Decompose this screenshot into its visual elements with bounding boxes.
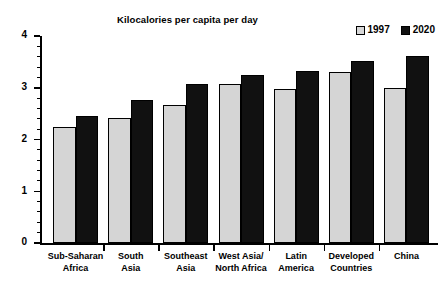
- bar-1997: [219, 84, 242, 243]
- group-separator-tick: [379, 243, 381, 251]
- plot-area: 01234: [40, 36, 438, 243]
- bar-group: [384, 36, 429, 243]
- bar-1997: [163, 105, 186, 243]
- x-category-label: South Asia: [100, 251, 161, 274]
- bar-1997: [53, 127, 76, 243]
- y-tick-label: 2: [21, 134, 27, 144]
- bar-1997: [274, 89, 297, 243]
- y-tick-minor: [37, 232, 41, 233]
- bar-2020: [351, 61, 374, 243]
- bar-2020: [131, 100, 154, 243]
- y-tick-major: 1: [34, 191, 40, 193]
- legend-entry-1997: 1997: [356, 25, 390, 35]
- y-tick-major: 4: [34, 35, 40, 37]
- bar-group: [274, 36, 319, 243]
- y-tick-minor: [37, 180, 41, 181]
- y-tick-minor: [37, 108, 41, 109]
- y-tick-label: 4: [21, 30, 27, 40]
- group-separator-tick: [158, 243, 160, 251]
- y-tick-label: 0: [21, 237, 27, 247]
- group-separator-tick: [324, 243, 326, 251]
- bar-2020: [76, 116, 99, 243]
- y-tick-label: 3: [21, 82, 27, 92]
- chart-legend: 1997 2020: [356, 25, 436, 35]
- group-separator-tick: [103, 243, 105, 251]
- y-tick-minor: [37, 98, 41, 99]
- y-tick-minor: [37, 149, 41, 150]
- y-tick-minor: [37, 77, 41, 78]
- x-category-label: Latin America: [266, 251, 327, 274]
- x-axis-category-labels: Sub-Saharan AfricaSouth AsiaSoutheast As…: [40, 251, 438, 285]
- x-category-label: China: [376, 251, 437, 263]
- legend-entry-2020: 2020: [401, 25, 435, 35]
- bar-group: [108, 36, 153, 243]
- y-tick-major: 3: [34, 87, 40, 89]
- y-tick-minor: [37, 46, 41, 47]
- y-tick-minor: [37, 67, 41, 68]
- y-tick-major: 2: [34, 139, 40, 141]
- y-tick-minor: [37, 201, 41, 202]
- x-category-label: West Asia/ North Africa: [210, 251, 271, 274]
- group-separator-tick: [269, 243, 271, 251]
- bar-group: [163, 36, 208, 243]
- y-tick-minor: [37, 160, 41, 161]
- bar-2020: [241, 75, 264, 243]
- bar-2020: [186, 84, 209, 243]
- y-tick-minor: [37, 170, 41, 171]
- bar-chart: Kilocalories per capita per day 1997 202…: [0, 0, 443, 286]
- y-tick-minor: [37, 118, 41, 119]
- y-tick-minor: [37, 222, 41, 223]
- x-category-label: Developed Countries: [321, 251, 382, 274]
- legend-swatch-2020: [401, 26, 410, 35]
- bar-1997: [384, 88, 407, 243]
- y-tick-minor: [37, 56, 41, 57]
- legend-label-1997: 1997: [368, 25, 390, 35]
- y-tick-minor: [37, 129, 41, 130]
- y-tick-label: 1: [21, 186, 27, 196]
- group-separator-tick: [213, 243, 215, 251]
- x-category-label: Sub-Saharan Africa: [45, 251, 106, 274]
- bar-group: [329, 36, 374, 243]
- bar-group: [219, 36, 264, 243]
- bar-2020: [406, 56, 429, 243]
- y-tick-major: 0: [34, 242, 40, 244]
- chart-title: Kilocalories per capita per day: [60, 14, 315, 25]
- y-tick-minor: [37, 211, 41, 212]
- legend-label-2020: 2020: [413, 25, 435, 35]
- bar-1997: [108, 118, 131, 243]
- bar-1997: [329, 72, 352, 243]
- x-category-label: Southeast Asia: [155, 251, 216, 274]
- y-axis-line: [40, 36, 42, 244]
- bar-group: [53, 36, 98, 243]
- bar-2020: [296, 71, 319, 243]
- legend-swatch-1997: [356, 26, 365, 35]
